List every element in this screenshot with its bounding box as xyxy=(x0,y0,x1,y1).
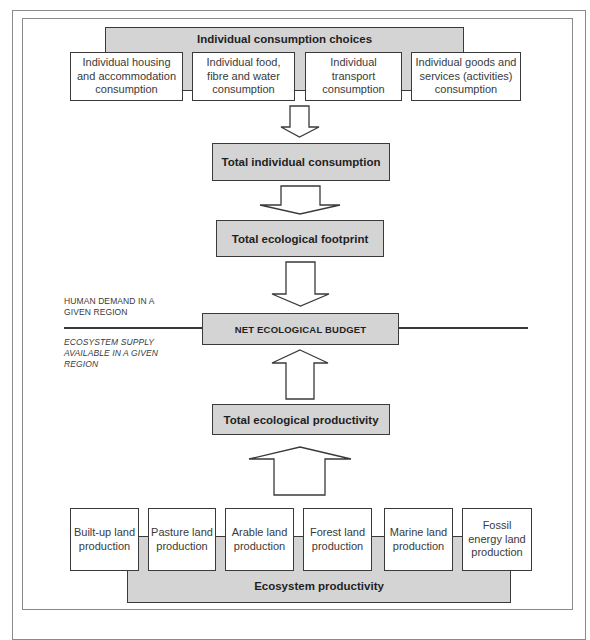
pasture-land-production-box: Pasture land production xyxy=(148,508,216,571)
built-up-land-production-box: Built-up land production xyxy=(70,508,139,571)
forest-land-production-box: Forest land production xyxy=(303,508,372,571)
fossil-energy-land-production-box: Fossil energy land production xyxy=(462,508,532,571)
arable-land-production-box: Arable land production xyxy=(225,508,294,571)
marine-land-production-box: Marine land production xyxy=(384,508,453,571)
ecosystem-productivity-title: Ecosystem productivity xyxy=(128,570,510,602)
